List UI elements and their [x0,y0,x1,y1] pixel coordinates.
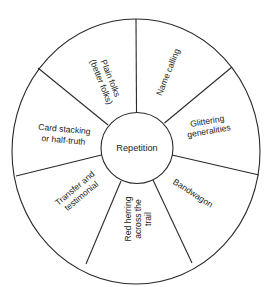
spoke-top [136,19,137,113]
propaganda-wheel-diagram: Repetition Name calling Glittering gener… [0,0,273,287]
spoke-right [172,155,259,175]
segment-bandwagon: Bandwagon [171,176,215,209]
segment-card-stacking: Card stacking or half-truth [37,122,91,148]
segment-glittering-generalities: Glittering generalities [185,112,232,139]
segment-label-line-2: across the [133,199,143,239]
segment-label: Bandwagon [171,176,215,209]
segment-label: Name calling [154,47,182,97]
segment-label-line-3: trail [143,212,153,226]
segment-label-line-1: Red herring [123,196,133,241]
segment-plain-folks: Plain folks (better folks) [88,54,124,106]
center-label: Repetition [116,143,157,153]
segment-red-herring: Red herring across the trail [123,196,153,241]
segment-transfer-testimonial: Transfer and testimonial [53,169,103,216]
segment-name-calling: Name calling [154,47,182,97]
